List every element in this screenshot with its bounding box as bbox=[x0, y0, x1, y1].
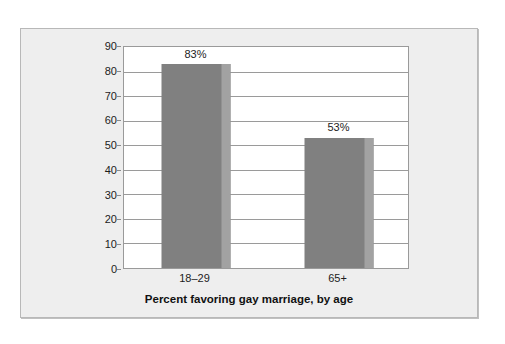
bar-series: 83% 53% bbox=[124, 47, 408, 268]
chart-figure-frame: 90 80 70 60 50 40 30 20 10 0 bbox=[20, 28, 478, 318]
x-tick-label: 65+ bbox=[266, 273, 409, 284]
bar-group: 83% bbox=[124, 47, 267, 268]
y-tick-mark bbox=[117, 195, 121, 196]
y-tick-mark bbox=[117, 120, 121, 121]
bar-value-label: 53% bbox=[327, 122, 349, 133]
y-tick-mark bbox=[117, 170, 121, 171]
y-tick-label: 30 bbox=[105, 189, 117, 200]
y-tick-mark bbox=[117, 219, 121, 220]
plot-area: 83% 53% bbox=[123, 46, 409, 269]
y-tick-label: 90 bbox=[105, 41, 117, 52]
y-tick-mark bbox=[117, 244, 121, 245]
y-tick-label: 70 bbox=[105, 90, 117, 101]
y-tick-mark bbox=[117, 46, 121, 47]
chart-title: Percent favoring gay marriage, by age bbox=[21, 294, 477, 306]
y-tick-mark bbox=[117, 71, 121, 72]
bar[interactable] bbox=[161, 64, 230, 268]
y-tick-label: 60 bbox=[105, 115, 117, 126]
y-tick-mark bbox=[117, 269, 121, 270]
y-axis: 90 80 70 60 50 40 30 20 10 0 bbox=[77, 46, 121, 269]
bar-group: 53% bbox=[267, 47, 410, 268]
y-tick-mark bbox=[117, 145, 121, 146]
bar-value-label: 83% bbox=[184, 49, 206, 60]
y-tick-label: 10 bbox=[105, 239, 117, 250]
y-tick-label: 20 bbox=[105, 214, 117, 225]
y-tick-label: 80 bbox=[105, 65, 117, 76]
bar[interactable] bbox=[304, 138, 373, 268]
x-tick-label: 18–29 bbox=[123, 273, 266, 284]
y-tick-mark bbox=[117, 96, 121, 97]
y-tick-label: 50 bbox=[105, 140, 117, 151]
y-tick-label: 40 bbox=[105, 164, 117, 175]
x-axis: 18–29 65+ bbox=[123, 273, 409, 291]
